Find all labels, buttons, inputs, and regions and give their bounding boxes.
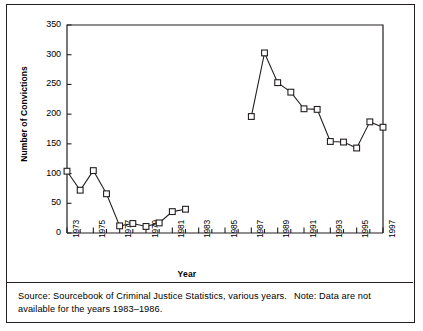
line-chart-svg [7, 5, 413, 281]
chart-axes [67, 25, 383, 233]
figure-source-note: Source: Sourcebook of Criminal Justice S… [18, 290, 402, 315]
chart-plot-area: Number of Convictions Year 0501001502002… [7, 5, 413, 281]
data-series-line [64, 50, 386, 229]
source-text: Source: Sourcebook of Criminal Justice S… [18, 291, 287, 301]
figure-container: Number of Convictions Year 0501001502002… [6, 4, 415, 323]
figure-divider [7, 282, 413, 283]
